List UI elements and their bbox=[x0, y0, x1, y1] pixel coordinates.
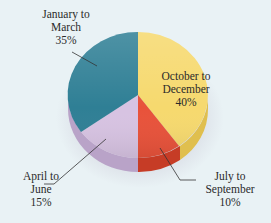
label-oct-dec: October to December 40% bbox=[144, 70, 228, 109]
label-text: September bbox=[192, 183, 268, 196]
label-percent: 10% bbox=[192, 196, 268, 209]
label-text: April to bbox=[14, 170, 68, 183]
label-text: July to bbox=[192, 170, 268, 183]
label-text: December bbox=[144, 83, 228, 96]
pie-chart: January to March 35% October to December… bbox=[0, 0, 271, 223]
label-percent: 15% bbox=[14, 196, 68, 209]
label-jul-sep: July to September 10% bbox=[192, 170, 268, 209]
label-text: March bbox=[32, 21, 100, 34]
label-text: October to bbox=[144, 70, 228, 83]
label-jan-mar: January to March 35% bbox=[32, 8, 100, 47]
label-text: June bbox=[14, 183, 68, 196]
label-text: January to bbox=[32, 8, 100, 21]
label-apr-jun: April to June 15% bbox=[14, 170, 68, 209]
label-percent: 35% bbox=[32, 34, 100, 47]
label-percent: 40% bbox=[144, 96, 228, 109]
